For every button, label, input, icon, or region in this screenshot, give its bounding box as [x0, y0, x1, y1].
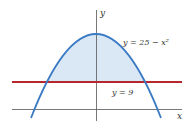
- line-label: y = 9: [111, 88, 133, 97]
- area-between-curves-figure: y x y = 25 − x² y = 9: [0, 0, 194, 128]
- x-axis-label: x: [177, 111, 182, 121]
- curve-label: y = 25 − x²: [122, 38, 169, 47]
- y-axis-label: y: [99, 8, 106, 18]
